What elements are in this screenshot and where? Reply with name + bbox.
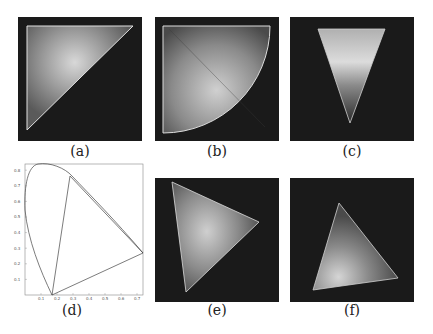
y-tick-0.7: 0.7 bbox=[14, 183, 20, 188]
x-tick-0.3: 0.3 bbox=[70, 296, 76, 301]
panel-f-image bbox=[290, 178, 414, 302]
panel-b-image bbox=[155, 17, 279, 141]
quarter-disc-shape bbox=[155, 17, 279, 141]
plot-svg bbox=[10, 160, 150, 300]
y-tick-0.2: 0.2 bbox=[14, 261, 20, 266]
caption-a: (a) bbox=[50, 143, 110, 159]
triangle-shape bbox=[290, 178, 414, 302]
x-tick-0.7: 0.7 bbox=[134, 296, 140, 301]
x-tick-0.1: 0.1 bbox=[38, 296, 44, 301]
y-tick-0.1: 0.1 bbox=[14, 277, 20, 282]
panel-e-image bbox=[155, 178, 279, 302]
x-tick-0.6: 0.6 bbox=[118, 296, 124, 301]
caption-c: (c) bbox=[322, 143, 382, 159]
y-tick-0.4: 0.4 bbox=[14, 230, 20, 235]
panel-a-image bbox=[18, 17, 142, 141]
x-tick-0.4: 0.4 bbox=[86, 296, 92, 301]
caption-f: (f) bbox=[322, 302, 382, 318]
y-tick-0.5: 0.5 bbox=[14, 214, 20, 219]
x-tick-0.2: 0.2 bbox=[54, 296, 60, 301]
x-tick-0.5: 0.5 bbox=[102, 296, 108, 301]
triangle-shape bbox=[155, 178, 279, 302]
y-tick-0.8: 0.8 bbox=[14, 168, 20, 173]
y-tick-0.6: 0.6 bbox=[14, 199, 20, 204]
caption-d: (d) bbox=[42, 302, 102, 318]
triangle-shape bbox=[18, 17, 142, 141]
inverted-triangle-shape bbox=[290, 17, 414, 141]
y-tick-0.3: 0.3 bbox=[14, 246, 20, 251]
panel-c-image bbox=[290, 17, 414, 141]
caption-e: (e) bbox=[187, 302, 247, 318]
chromaticity-plot: 0.8 0.7 0.6 0.5 0.4 0.3 0.2 0.1 0.1 0.2 … bbox=[10, 160, 150, 300]
caption-b: (b) bbox=[187, 143, 247, 159]
